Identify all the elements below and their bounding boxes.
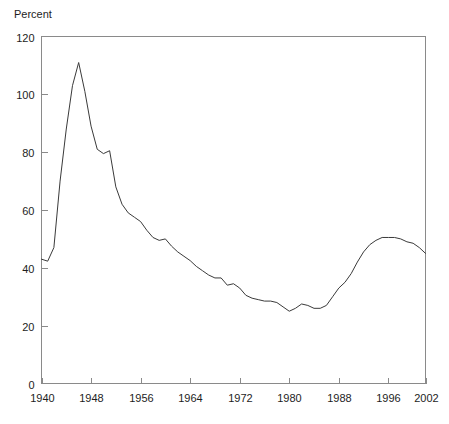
x-tick-label-2002: 2002 [414, 392, 438, 404]
y-axis-tick-group [42, 95, 48, 327]
y-axis-tick-labels: 020406080100120 [16, 32, 34, 391]
y-tick-label-40: 40 [22, 263, 34, 275]
y-tick-label-60: 60 [22, 205, 34, 217]
x-tick-label-1980: 1980 [277, 392, 301, 404]
chart-container: Percent 020406080100120 1940194819561964… [0, 0, 449, 424]
y-tick-label-120: 120 [16, 32, 34, 44]
plot-frame [42, 37, 426, 384]
y-tick-label-20: 20 [22, 321, 34, 333]
x-axis-tick-labels: 194019481956196419721980198819962002 [30, 392, 438, 404]
y-axis-title: Percent [14, 8, 52, 20]
x-tick-label-1996: 1996 [376, 392, 400, 404]
x-tick-label-1940: 1940 [30, 392, 54, 404]
x-tick-label-1948: 1948 [79, 392, 103, 404]
series-group [42, 63, 426, 312]
series-line-0 [42, 63, 426, 312]
y-tick-label-0: 0 [28, 379, 34, 391]
y-tick-label-100: 100 [16, 89, 34, 101]
x-tick-label-1956: 1956 [129, 392, 153, 404]
x-axis-tick-group [43, 378, 427, 384]
x-tick-label-1988: 1988 [327, 392, 351, 404]
debt-to-gdp-line-chart: Percent 020406080100120 1940194819561964… [0, 0, 449, 424]
x-tick-label-1972: 1972 [228, 392, 252, 404]
y-tick-label-80: 80 [22, 147, 34, 159]
x-tick-label-1964: 1964 [178, 392, 202, 404]
